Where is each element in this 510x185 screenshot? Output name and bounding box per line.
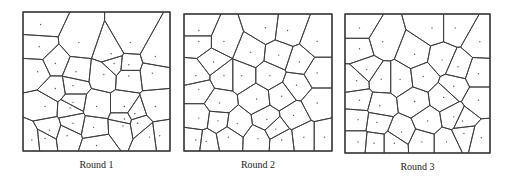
voronoi-cell [292, 120, 315, 151]
voronoi-cell [440, 102, 465, 130]
seed-point [49, 129, 50, 130]
seed-point [401, 131, 402, 132]
voronoi-cell [197, 48, 233, 76]
seed-point [93, 127, 94, 128]
seed-point [111, 53, 112, 54]
voronoi-cell [37, 129, 57, 151]
seed-point [219, 102, 220, 103]
voronoi-cell [184, 14, 221, 36]
voronoi-cell [140, 63, 170, 91]
voronoi-cell [345, 109, 369, 131]
voronoi-cell [140, 12, 170, 68]
voronoi-cell [184, 36, 211, 59]
voronoi-cell [62, 56, 91, 81]
seed-point [441, 59, 442, 60]
panel-round-1 [23, 12, 170, 151]
caption-round-3: Round 3 [358, 161, 478, 172]
voronoi-cell [233, 59, 256, 95]
seed-point [103, 74, 104, 75]
voronoi-cell [61, 94, 87, 112]
seed-point [379, 105, 380, 106]
voronoi-cell [445, 47, 472, 79]
seed-point [287, 30, 288, 31]
voronoi-cell [116, 70, 143, 93]
seed-point [137, 123, 138, 124]
voronoi-cell [184, 104, 210, 130]
voronoi-cell [345, 131, 367, 153]
seed-point [446, 141, 447, 142]
voronoi-cell [62, 76, 91, 94]
seed-point [96, 145, 97, 146]
voronoi-cell [57, 100, 84, 119]
voronoi-cell [384, 131, 409, 153]
voronoi-cell [461, 14, 490, 58]
seed-point [195, 139, 196, 140]
voronoi-cell [283, 72, 313, 101]
seed-point [373, 143, 374, 144]
seed-point [281, 139, 282, 140]
voronoi-cell [237, 83, 270, 115]
seed-point [223, 41, 224, 42]
seed-point [44, 106, 45, 107]
seed-point [198, 30, 199, 31]
seed-point [265, 27, 266, 28]
voronoi-cell [265, 116, 290, 139]
seed-point [281, 96, 282, 97]
voronoi-cell [461, 87, 490, 119]
seed-point [124, 118, 125, 119]
voronoi-cell [108, 113, 132, 124]
voronoi-cell [299, 14, 332, 57]
seed-point [155, 106, 156, 107]
seed-point [72, 123, 73, 124]
seed-point [324, 137, 325, 138]
seed-point [241, 75, 242, 76]
seed-point [159, 135, 160, 136]
seed-point [78, 42, 79, 43]
seed-point [152, 72, 153, 73]
seed-point [55, 88, 56, 89]
seed-point [479, 41, 480, 42]
voronoi-cell [140, 88, 170, 121]
seed-point [134, 113, 135, 114]
seed-point [72, 85, 73, 86]
seed-point [66, 135, 67, 136]
voronoi-cell [23, 12, 70, 37]
seed-point [44, 138, 45, 139]
seed-point [198, 89, 199, 90]
voronoi-cell [56, 125, 82, 151]
voronoi-cell [233, 31, 266, 67]
voronoi-cell [345, 64, 369, 93]
voronoi-cell [121, 53, 143, 70]
seed-point [443, 97, 444, 98]
voronoi-cell [23, 35, 59, 60]
seed-point [269, 75, 270, 76]
voronoi-cell [130, 115, 153, 139]
voronoi-cell [369, 61, 391, 94]
seed-point [223, 75, 224, 76]
seed-point [303, 137, 304, 138]
seed-point [455, 27, 456, 28]
seed-point [414, 101, 415, 102]
seed-point [293, 115, 294, 116]
seed-point [198, 117, 199, 118]
seed-point [357, 141, 358, 142]
voronoi-cell [153, 119, 170, 151]
seed-point [38, 46, 39, 47]
voronoi-cell [408, 129, 434, 153]
seed-point [256, 98, 257, 99]
seed-point [72, 102, 73, 103]
seed-point [40, 24, 41, 25]
voronoi-cell [23, 58, 51, 93]
seed-point [317, 102, 318, 103]
seed-point [478, 73, 479, 74]
seed-point [427, 120, 428, 121]
seed-point [128, 64, 129, 65]
seed-point [124, 106, 125, 107]
voronoi-cell [216, 127, 243, 151]
seed-point [356, 80, 357, 81]
seed-point [299, 61, 300, 62]
seed-point [96, 106, 97, 107]
seed-point [228, 137, 229, 138]
seed-point [453, 116, 454, 117]
seed-point [113, 63, 114, 64]
